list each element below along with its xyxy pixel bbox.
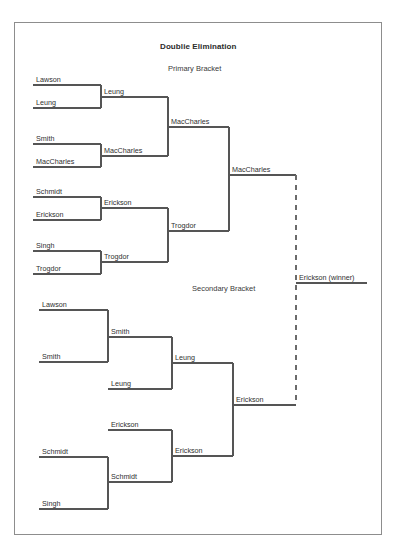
slot-secondary-r2-m3[interactable]: Erickson [111, 421, 139, 428]
slot-secondary-r1-m2-b[interactable]: Singh [42, 500, 60, 507]
slot-primary-r2-m3[interactable]: Erickson [104, 199, 132, 206]
slot-secondary-r3-m1[interactable]: Leung [175, 354, 195, 361]
slot-secondary-r1-m1-b[interactable]: Smith [42, 353, 60, 360]
slot-secondary-r2-m2[interactable]: Leung [111, 380, 131, 387]
slot-primary-r1-m4-a[interactable]: Singh [36, 242, 54, 249]
slot-primary-r2-m2[interactable]: MacCharles [104, 147, 142, 154]
slot-primary-r3-m2[interactable]: Trogdor [171, 222, 196, 229]
bracket-page: Doublie Elimination Primary Bracket Seco… [0, 0, 398, 559]
slot-primary-r1-m4-b[interactable]: Trogdor [36, 265, 61, 272]
primary-bracket-label: Primary Bracket [168, 64, 221, 73]
slot-secondary-r2-m4[interactable]: Schmidt [111, 473, 137, 480]
slot-secondary-r2-m1[interactable]: Smith [111, 328, 129, 335]
secondary-bracket-label: Secondary Bracket [192, 284, 255, 293]
slot-primary-r3-m1[interactable]: MacCharles [171, 118, 209, 125]
winner-label[interactable]: Erickson (winner) [299, 274, 355, 281]
slot-primary-r1-m3-a[interactable]: Schmidt [36, 188, 62, 195]
slot-primary-r1-m1-b[interactable]: Leung [36, 99, 56, 106]
slot-secondary-r1-m2-a[interactable]: Schmidt [42, 448, 68, 455]
slot-primary-final[interactable]: MacCharles [232, 166, 270, 173]
page-title: Doublie Elimination [160, 42, 237, 51]
slot-primary-r1-m1-a[interactable]: Lawson [36, 76, 61, 83]
slot-primary-r2-m4[interactable]: Trogdor [104, 253, 129, 260]
slot-primary-r1-m2-a[interactable]: Smith [36, 135, 54, 142]
slot-primary-r2-m1[interactable]: Leung [104, 88, 124, 95]
slot-secondary-r3-m2[interactable]: Erickson [175, 447, 203, 454]
slot-primary-r1-m3-b[interactable]: Erickson [36, 211, 64, 218]
slot-secondary-r1-m1-a[interactable]: Lawson [42, 301, 67, 308]
slot-primary-r1-m2-b[interactable]: MacCharles [36, 158, 74, 165]
slot-secondary-final[interactable]: Erickson [236, 396, 264, 403]
